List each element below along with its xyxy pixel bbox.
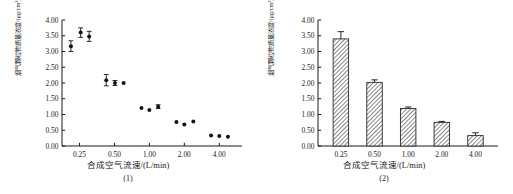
- panel2-series: [333, 32, 483, 146]
- panel1-y-tick-label: 1.50: [46, 94, 59, 103]
- panel2-y-tick-label: 0.00: [302, 142, 315, 151]
- data-point: [122, 81, 126, 85]
- figure-container: 烟气颗粒物质量浓度/(μg/cm³) 0.000.501.001.502.002…: [0, 0, 513, 194]
- data-point: [174, 120, 178, 124]
- data-point: [209, 134, 213, 138]
- data-point: [87, 34, 91, 38]
- data-point: [69, 44, 73, 48]
- panel1-series: [69, 28, 230, 139]
- panel1-y-tick-label: 0.50: [46, 126, 59, 135]
- data-point: [139, 106, 143, 110]
- bar: [434, 122, 449, 146]
- panel1-y-tick-label: 3.50: [46, 31, 59, 40]
- bar: [468, 136, 483, 146]
- data-point: [79, 31, 83, 35]
- data-point: [156, 105, 160, 109]
- data-point: [113, 81, 117, 85]
- panel1-y-tick-label: 0.00: [46, 142, 59, 151]
- data-point: [226, 135, 230, 139]
- panel2-caption: (2): [256, 174, 512, 183]
- panel1-y-tick-label: 4.00: [46, 16, 59, 25]
- panel2-y-tick-label: 4.00: [302, 16, 315, 25]
- panel1-y-tick-label: 2.50: [46, 63, 59, 72]
- panel-bar: 烟气颗粒物质量浓度/(μg/cm³) 0.000.501.001.502.002…: [256, 0, 512, 194]
- data-point: [182, 123, 186, 127]
- panel1-y-tick-label: 1.00: [46, 110, 59, 119]
- data-point: [147, 108, 151, 112]
- panel2-y-tick-label: 3.00: [302, 47, 315, 56]
- panel1-caption: (1): [0, 174, 256, 183]
- data-point: [217, 134, 221, 138]
- panel2-y-tick-label: 3.50: [302, 31, 315, 40]
- panel1-y-tick-label: 2.00: [46, 79, 59, 88]
- panel-scatter: 烟气颗粒物质量浓度/(μg/cm³) 0.000.501.001.502.002…: [0, 0, 256, 194]
- data-point: [104, 78, 108, 82]
- bar: [400, 109, 415, 146]
- data-point: [191, 119, 195, 123]
- panel1-y-tick-label: 3.00: [46, 47, 59, 56]
- panel2-y-tick-label: 1.50: [302, 94, 315, 103]
- panel2-y-tick-label: 0.50: [302, 126, 315, 135]
- panel2-y-tick-label: 2.50: [302, 63, 315, 72]
- panel1-x-axis-label: 合成空气流速/(L/min): [0, 158, 256, 170]
- bar: [367, 82, 382, 146]
- panel2-y-tick-label: 2.00: [302, 79, 315, 88]
- bar: [333, 39, 348, 146]
- panel2-y-tick-label: 1.00: [302, 110, 315, 119]
- panel2-x-axis-label: 合成空气流速/(L/min): [256, 158, 512, 170]
